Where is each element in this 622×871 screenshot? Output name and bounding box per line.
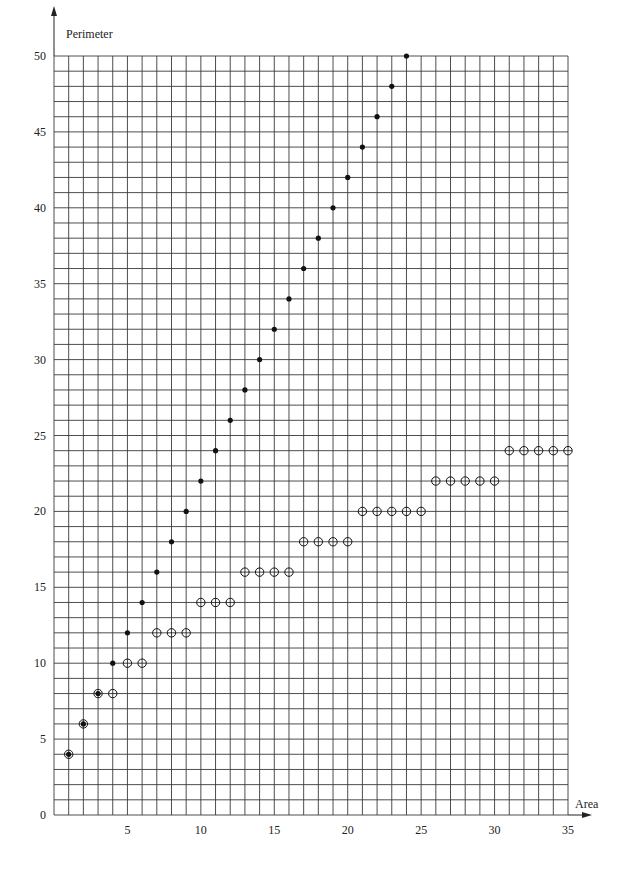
filled-dot-marker-icon: [272, 327, 277, 332]
y-tick-label: 10: [34, 656, 46, 670]
x-tick-label: 30: [489, 823, 501, 837]
open-circle-marker-icon: [285, 568, 293, 576]
open-circle-marker-icon: [549, 446, 557, 454]
filled-dot-marker-icon: [125, 630, 130, 635]
open-circle-marker-icon: [490, 477, 498, 485]
open-circle-marker-icon: [432, 477, 440, 485]
open-circle-marker-icon: [182, 629, 190, 637]
open-circle-marker-icon: [520, 446, 528, 454]
open-circle-marker-icon: [138, 659, 146, 667]
open-circle-marker-icon: [476, 477, 484, 485]
open-circle-marker-icon: [344, 538, 352, 546]
y-axis-label: Perimeter: [66, 27, 113, 41]
open-circle-marker-icon: [153, 629, 161, 637]
filled-dot-marker-icon: [213, 448, 218, 453]
y-axis-arrowhead-icon: [51, 6, 57, 16]
open-circle-marker-icon: [167, 629, 175, 637]
open-circle-marker-icon: [358, 507, 366, 515]
open-circle-marker-icon: [255, 568, 263, 576]
open-circle-marker-icon: [373, 507, 381, 515]
open-circle-marker-icon: [505, 446, 513, 454]
open-circle-marker-icon: [564, 446, 572, 454]
filled-dot-marker-icon: [140, 600, 145, 605]
open-circle-marker-icon: [197, 598, 205, 606]
open-circle-marker-icon: [314, 538, 322, 546]
filled-dot-marker-icon: [228, 418, 233, 423]
axes: Perimeter Area: [51, 6, 599, 818]
open-circle-marker-icon: [241, 568, 249, 576]
filled-dot-marker-icon: [330, 205, 335, 210]
x-tick-label: 35: [562, 823, 574, 837]
y-tick-label: 50: [34, 49, 46, 63]
filled-dot-marker-icon: [404, 53, 409, 58]
filled-dot-marker-icon: [198, 478, 203, 483]
y-tick-label: 20: [34, 504, 46, 518]
filled-dot-marker-icon: [169, 539, 174, 544]
filled-dot-marker-icon: [154, 570, 159, 575]
open-circle-marker-icon: [402, 507, 410, 515]
x-axis-label: Area: [575, 797, 599, 811]
filled-dot-marker-icon: [301, 266, 306, 271]
filled-dot-marker-icon: [345, 175, 350, 180]
y-tick-label: 25: [34, 429, 46, 443]
filled-dot-marker-icon: [257, 357, 262, 362]
filled-dot-marker-icon: [286, 296, 291, 301]
x-tick-label: 5: [124, 823, 130, 837]
open-circle-marker-icon: [299, 538, 307, 546]
open-circle-marker-icon: [226, 598, 234, 606]
x-tick-label: 10: [195, 823, 207, 837]
filled-dot-marker-icon: [110, 661, 115, 666]
x-tick-label: 15: [268, 823, 280, 837]
grid: [54, 56, 568, 815]
open-circle-marker-icon: [109, 689, 117, 697]
filled-dot-marker-icon: [360, 144, 365, 149]
open-circle-marker-icon: [123, 659, 131, 667]
x-axis-arrowhead-icon: [582, 812, 592, 818]
open-circle-marker-icon: [534, 446, 542, 454]
y-tick-label: 35: [34, 277, 46, 291]
filled-dot-marker-icon: [389, 84, 394, 89]
perimeter-area-chart: Perimeter Area 0510152025303540455051015…: [0, 0, 622, 871]
y-tick-label: 15: [34, 580, 46, 594]
filled-dot-marker-icon: [81, 721, 86, 726]
open-circle-marker-icon: [446, 477, 454, 485]
y-tick-label: 0: [40, 808, 46, 822]
y-tick-label: 30: [34, 353, 46, 367]
y-tick-label: 5: [40, 732, 46, 746]
filled-dot-marker-icon: [66, 752, 71, 757]
open-circle-marker-icon: [417, 507, 425, 515]
open-circle-marker-icon: [270, 568, 278, 576]
filled-dot-marker-icon: [316, 236, 321, 241]
filled-dot-marker-icon: [242, 387, 247, 392]
x-tick-label: 20: [342, 823, 354, 837]
x-tick-label: 25: [415, 823, 427, 837]
filled-dot-marker-icon: [95, 691, 100, 696]
open-circle-marker-icon: [461, 477, 469, 485]
filled-dot-marker-icon: [374, 114, 379, 119]
y-tick-label: 45: [34, 125, 46, 139]
open-circle-marker-icon: [329, 538, 337, 546]
open-circle-marker-icon: [388, 507, 396, 515]
filled-dot-marker-icon: [184, 509, 189, 514]
y-tick-label: 40: [34, 201, 46, 215]
open-circle-marker-icon: [211, 598, 219, 606]
